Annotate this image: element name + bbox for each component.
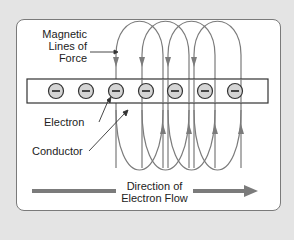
field-loop-4-bottom [194, 110, 241, 170]
field-loop-1-bottom [116, 110, 163, 170]
electron-icon [79, 84, 94, 99]
field-loop-2-bottom [142, 110, 189, 170]
electron-icon [139, 84, 154, 99]
leader-electron [99, 101, 108, 122]
field-loop-3-bottom [168, 110, 215, 170]
electron-icon [109, 84, 124, 99]
label-magnetic-lines: Magnetic Lines of Force [27, 28, 87, 64]
arrow-down-icons [113, 57, 197, 67]
label-electron-flow: Direction of Electron Flow [117, 180, 192, 204]
electron-icon [49, 84, 64, 99]
electron-icon [168, 84, 183, 99]
label-electron: Electron [44, 116, 84, 128]
electron-icon [228, 84, 243, 99]
label-conductor: Conductor [32, 145, 83, 157]
electron-icon [198, 84, 213, 99]
arrow-up-icons [160, 124, 244, 134]
